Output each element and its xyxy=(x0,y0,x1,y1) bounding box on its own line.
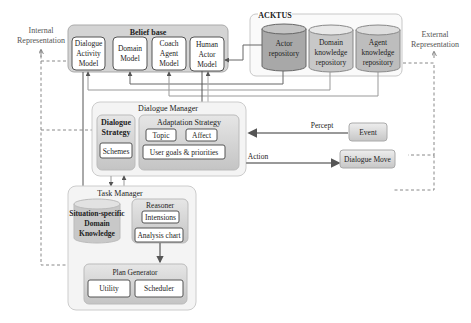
architecture-diagram: Internal Representation External Represe… xyxy=(0,0,471,323)
svg-text:Strategy: Strategy xyxy=(102,128,131,137)
situation-specific-domain-knowledge[interactable]: Situation-specific Domain Knowledge xyxy=(69,199,125,243)
actor-repository[interactable]: Actor repository xyxy=(262,24,306,71)
plan-generator[interactable]: Plan Generator Utility Scheduler xyxy=(84,264,187,304)
dm-tm-connectors xyxy=(111,176,124,186)
svg-text:Coach: Coach xyxy=(159,39,178,48)
svg-text:Affect: Affect xyxy=(192,131,212,140)
svg-text:Human: Human xyxy=(196,40,218,49)
adaptation-strategy[interactable]: Adaptation Strategy Topic Affect User go… xyxy=(139,115,239,170)
svg-text:Representation: Representation xyxy=(411,40,459,49)
acktus-title: ACKTUS xyxy=(258,11,292,20)
task-manager-title: Task Manager xyxy=(97,189,143,198)
svg-text:Domain: Domain xyxy=(84,219,110,228)
svg-text:Activity: Activity xyxy=(76,49,101,58)
svg-text:Dialogue: Dialogue xyxy=(75,39,103,48)
svg-text:User goals & priorities: User goals & priorities xyxy=(150,148,219,157)
svg-text:repository: repository xyxy=(316,58,347,67)
svg-text:Utility: Utility xyxy=(99,284,119,293)
svg-text:repository: repository xyxy=(363,58,394,67)
svg-text:Dialogue: Dialogue xyxy=(101,118,132,127)
svg-text:Model: Model xyxy=(197,60,217,69)
svg-text:Topic: Topic xyxy=(153,131,171,140)
belief-base-title: Belief base xyxy=(130,28,167,37)
svg-text:Model: Model xyxy=(120,54,140,63)
svg-text:Situation-specific: Situation-specific xyxy=(69,209,125,218)
svg-text:Dialogue Move: Dialogue Move xyxy=(344,155,392,164)
svg-text:Agent: Agent xyxy=(160,49,179,58)
svg-text:Event: Event xyxy=(359,128,377,137)
svg-text:repository: repository xyxy=(269,49,300,58)
svg-text:Analysis chart: Analysis chart xyxy=(137,231,181,240)
svg-text:Agent: Agent xyxy=(369,38,388,47)
action-label: Action xyxy=(248,152,269,161)
schemes-box: Schemes xyxy=(103,147,130,156)
svg-text:Representation: Representation xyxy=(17,36,65,45)
dialogue-manager: Dialogue Manager Dialogue Strategy Schem… xyxy=(92,102,246,176)
svg-text:External: External xyxy=(421,30,449,39)
belief-base: Belief base Dialogue Activity Model Doma… xyxy=(68,25,228,72)
svg-text:Knowledge: Knowledge xyxy=(79,229,116,238)
domain-knowledge-repository[interactable]: Domain knowledge repository xyxy=(309,25,353,72)
svg-text:Reasoner: Reasoner xyxy=(146,201,174,210)
dialogue-activity-model[interactable]: Dialogue Activity Model xyxy=(72,37,105,70)
dialogue-manager-title: Dialogue Manager xyxy=(138,104,198,113)
svg-text:knowledge: knowledge xyxy=(362,48,396,57)
svg-text:Scheduler: Scheduler xyxy=(144,284,174,293)
human-actor-model[interactable]: Human Actor Model xyxy=(190,37,224,71)
svg-text:Domain: Domain xyxy=(319,38,343,47)
svg-text:Plan Generator: Plan Generator xyxy=(112,268,158,277)
reasoner[interactable]: Reasoner Intensions Analysis chart xyxy=(132,199,188,243)
agent-knowledge-repository[interactable]: Agent knowledge repository xyxy=(356,25,400,72)
svg-text:Actor: Actor xyxy=(275,39,293,48)
percept-label: Percept xyxy=(311,121,334,130)
dialogue-move-box[interactable]: Dialogue Move xyxy=(340,150,395,168)
acktus: ACKTUS Actor repository Domain knowledge… xyxy=(250,10,402,76)
svg-text:Model: Model xyxy=(79,59,99,68)
dialogue-strategy[interactable]: Dialogue Strategy Schemes xyxy=(97,115,135,170)
coach-agent-model[interactable]: Coach Agent Model xyxy=(152,37,186,70)
event-box[interactable]: Event xyxy=(349,123,387,141)
svg-text:Intensions: Intensions xyxy=(145,213,176,222)
svg-text:Actor: Actor xyxy=(198,50,216,59)
external-representation-label: External Representation xyxy=(411,30,459,49)
internal-representation-label: Internal Representation xyxy=(17,26,65,45)
svg-text:Internal: Internal xyxy=(29,26,55,35)
svg-text:knowledge: knowledge xyxy=(315,48,349,57)
svg-text:Model: Model xyxy=(159,59,179,68)
task-manager: Task Manager Situation-specific Domain K… xyxy=(68,186,196,310)
svg-text:Adaptation Strategy: Adaptation Strategy xyxy=(157,118,221,127)
domain-model[interactable]: Domain Model xyxy=(113,37,147,70)
svg-text:Domain: Domain xyxy=(118,44,142,53)
